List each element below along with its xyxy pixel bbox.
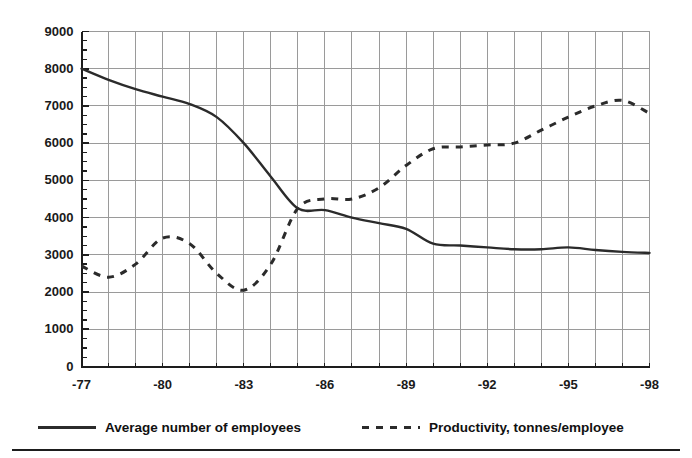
axis-frame (81, 32, 650, 367)
x-axis-label: -80 (133, 377, 193, 392)
legend-item-1[interactable]: Average number of employees (38, 416, 301, 438)
chart-legend: Average number of employeesProductivity,… (0, 412, 692, 442)
legend-line-sample-dashed (362, 421, 420, 433)
x-axis-label: -95 (538, 377, 598, 392)
y-axis-label: 2000 (45, 284, 74, 299)
y-axis-label: 0 (66, 359, 73, 374)
x-axis-label: -86 (295, 377, 355, 392)
y-axis-label: 3000 (45, 247, 74, 262)
y-axis-label: 7000 (45, 98, 74, 113)
x-axis-label: -98 (620, 377, 680, 392)
y-axis-minor-ticks (82, 32, 89, 367)
horizontal-gridlines (82, 32, 650, 330)
data-series-layer (82, 69, 650, 291)
y-axis-label: 9000 (45, 24, 74, 39)
y-axis-label: 1000 (45, 321, 74, 336)
legend-line-sample-solid (38, 421, 96, 433)
y-axis-label: 6000 (45, 135, 74, 150)
x-axis-label: -92 (457, 377, 517, 392)
series-line-1 (82, 69, 650, 253)
y-axis-label: 5000 (45, 172, 74, 187)
legend-item-label: Productivity, tonnes/employee (429, 420, 624, 435)
legend-item-label: Average number of employees (105, 420, 301, 435)
x-axis-label: -89 (376, 377, 436, 392)
y-axis-label: 4000 (45, 210, 74, 225)
vertical-gridlines (109, 32, 650, 367)
x-axis-label: -77 (52, 377, 112, 392)
x-axis-label: -83 (214, 377, 274, 392)
series-line-2 (82, 100, 650, 290)
chart-container: 0100020003000400050006000700080009000 -7… (0, 0, 692, 458)
legend-item-2[interactable]: Productivity, tonnes/employee (362, 416, 624, 438)
bottom-divider-rule (12, 449, 680, 451)
y-axis-label: 8000 (45, 61, 74, 76)
